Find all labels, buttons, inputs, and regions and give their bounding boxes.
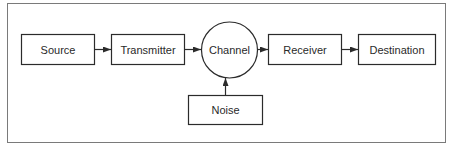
node-source-label: Source: [41, 44, 76, 56]
node-noise-label: Noise: [211, 104, 239, 116]
node-receiver-label: Receiver: [283, 44, 327, 56]
node-receiver: Receiver: [269, 35, 342, 65]
node-channel: Channel: [202, 22, 258, 78]
node-transmitter: Transmitter: [112, 35, 185, 65]
node-channel-label: Channel: [209, 44, 250, 56]
communication-model-diagram: Source Transmitter Channel Receiver Dest…: [0, 0, 453, 149]
node-noise: Noise: [189, 96, 263, 125]
node-transmitter-label: Transmitter: [120, 44, 176, 56]
node-destination-label: Destination: [369, 44, 424, 56]
node-destination: Destination: [359, 35, 436, 65]
node-source: Source: [22, 35, 95, 65]
